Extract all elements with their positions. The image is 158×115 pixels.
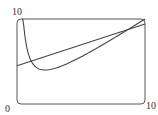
plot-frame (17, 19, 145, 104)
series-line (17, 24, 145, 66)
chart: 10 0 10 (0, 0, 158, 115)
origin-tick-label: 0 (5, 103, 10, 114)
x-max-tick-label: 10 (146, 100, 156, 111)
y-max-tick-label: 10 (12, 6, 22, 17)
